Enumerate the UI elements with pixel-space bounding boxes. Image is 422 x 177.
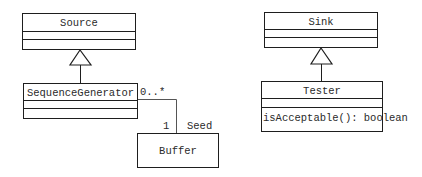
class-name-tester: Tester [262,86,382,97]
class-name-sequence-generator: SequenceGenerator [24,88,137,99]
role-seed: Seed [187,121,212,132]
generalization-arrow-sink [311,48,332,64]
attributes-compartment [262,98,382,107]
attributes-compartment [24,100,137,108]
class-source[interactable]: Source [22,13,136,50]
attributes-compartment [23,31,135,39]
class-name-sink: Sink [265,17,377,28]
association-line-seed [137,100,177,134]
operations-compartment [23,39,135,49]
operations-compartment: isAcceptable(): boolean [262,107,382,131]
operations-compartment [265,37,377,47]
class-sequence-generator[interactable]: SequenceGenerator [23,83,138,119]
generalization-arrow-source [70,50,91,65]
class-buffer[interactable]: Buffer [137,133,219,168]
uml-diagram-canvas: Source SequenceGenerator 0..* Buffer 1 S… [0,0,422,177]
class-tester[interactable]: Tester isAcceptable(): boolean [261,81,383,132]
attributes-compartment [265,29,377,37]
class-sink[interactable]: Sink [264,12,378,48]
class-name-buffer: Buffer [138,146,218,157]
multiplicity-one: 1 [163,121,169,132]
class-name-source: Source [23,18,135,29]
operation-is-acceptable: isAcceptable(): boolean [263,113,408,124]
multiplicity-many: 0..* [140,87,165,98]
operations-compartment [24,108,137,118]
